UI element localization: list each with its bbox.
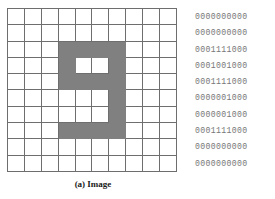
binary-code-row-4: 0001111000 bbox=[195, 74, 275, 90]
pixel-cell-r5-c5 bbox=[92, 90, 109, 106]
pixel-cell-r0-c3 bbox=[59, 9, 76, 25]
binary-code-panel: 0000000000000000000000011110000001001000… bbox=[186, 0, 275, 199]
pixel-cell-r2-c4 bbox=[76, 42, 93, 58]
pixel-cell-r1-c7 bbox=[126, 25, 143, 41]
pixel-cell-r5-c0 bbox=[8, 90, 25, 106]
image-panel: (a) Image bbox=[0, 0, 186, 199]
pixel-cell-r9-c2 bbox=[42, 156, 59, 172]
caption-image: (a) Image bbox=[0, 179, 186, 189]
pixel-cell-r0-c7 bbox=[126, 9, 143, 25]
pixel-cell-r4-c6 bbox=[109, 74, 126, 90]
pixel-cell-r4-c1 bbox=[25, 74, 42, 90]
pixel-cell-r8-c4 bbox=[76, 139, 93, 155]
pixel-cell-r8-c2 bbox=[42, 139, 59, 155]
pixel-cell-r9-c9 bbox=[160, 156, 177, 172]
pixel-cell-r8-c7 bbox=[126, 139, 143, 155]
binary-code-row-0: 0000000000 bbox=[195, 9, 275, 25]
pixel-cell-r4-c5 bbox=[92, 74, 109, 90]
pixel-cell-r4-c0 bbox=[8, 74, 25, 90]
binary-code-rows: 0000000000000000000000011110000001001000… bbox=[195, 9, 275, 172]
pixel-cell-r0-c1 bbox=[25, 9, 42, 25]
pixel-cell-r5-c8 bbox=[143, 90, 160, 106]
pixel-cell-r6-c5 bbox=[92, 107, 109, 123]
binary-code-row-1: 0000000000 bbox=[195, 25, 275, 41]
pixel-cell-r2-c5 bbox=[92, 42, 109, 58]
figure-pixel-image-and-binary-code: (a) Image 000000000000000000000001111000… bbox=[0, 0, 275, 199]
pixel-cell-r0-c9 bbox=[160, 9, 177, 25]
pixel-cell-r2-c0 bbox=[8, 42, 25, 58]
pixel-cell-r2-c6 bbox=[109, 42, 126, 58]
pixel-cell-r6-c2 bbox=[42, 107, 59, 123]
pixel-cell-r4-c9 bbox=[160, 74, 177, 90]
pixel-cell-r4-c2 bbox=[42, 74, 59, 90]
pixel-cell-r0-c2 bbox=[42, 9, 59, 25]
pixel-cell-r2-c8 bbox=[143, 42, 160, 58]
binary-code-row-6: 0000001000 bbox=[195, 107, 275, 123]
pixel-cell-r5-c6 bbox=[109, 90, 126, 106]
pixel-cell-r1-c1 bbox=[25, 25, 42, 41]
pixel-cell-r9-c4 bbox=[76, 156, 93, 172]
pixel-cell-r9-c5 bbox=[92, 156, 109, 172]
pixel-cell-r7-c3 bbox=[59, 123, 76, 139]
pixel-cell-r0-c4 bbox=[76, 9, 93, 25]
pixel-cell-r2-c3 bbox=[59, 42, 76, 58]
pixel-cell-r9-c6 bbox=[109, 156, 126, 172]
pixel-cell-r4-c3 bbox=[59, 74, 76, 90]
pixel-cell-r1-c3 bbox=[59, 25, 76, 41]
pixel-cell-r6-c9 bbox=[160, 107, 177, 123]
pixel-cell-r5-c3 bbox=[59, 90, 76, 106]
pixel-cell-r1-c8 bbox=[143, 25, 160, 41]
pixel-cell-r0-c5 bbox=[92, 9, 109, 25]
pixel-cell-r2-c1 bbox=[25, 42, 42, 58]
pixel-cell-r6-c1 bbox=[25, 107, 42, 123]
pixel-cell-r8-c8 bbox=[143, 139, 160, 155]
pixel-cell-r3-c9 bbox=[160, 58, 177, 74]
pixel-cell-r9-c3 bbox=[59, 156, 76, 172]
pixel-cell-r6-c3 bbox=[59, 107, 76, 123]
pixel-cell-r3-c6 bbox=[109, 58, 126, 74]
binary-code-row-9: 0000000000 bbox=[195, 156, 275, 172]
pixel-cell-r2-c2 bbox=[42, 42, 59, 58]
pixel-cell-r3-c0 bbox=[8, 58, 25, 74]
pixel-cell-r4-c7 bbox=[126, 74, 143, 90]
pixel-cell-r6-c6 bbox=[109, 107, 126, 123]
pixel-cell-r1-c2 bbox=[42, 25, 59, 41]
pixel-cell-r8-c0 bbox=[8, 139, 25, 155]
pixel-cell-r7-c0 bbox=[8, 123, 25, 139]
binary-code-row-8: 0000000000 bbox=[195, 139, 275, 155]
pixel-cell-r4-c8 bbox=[143, 74, 160, 90]
pixel-cell-r7-c7 bbox=[126, 123, 143, 139]
pixel-cell-r1-c6 bbox=[109, 25, 126, 41]
pixel-cell-r8-c6 bbox=[109, 139, 126, 155]
pixel-cell-r6-c8 bbox=[143, 107, 160, 123]
pixel-cell-r2-c7 bbox=[126, 42, 143, 58]
pixel-cell-r3-c2 bbox=[42, 58, 59, 74]
pixel-cell-r1-c5 bbox=[92, 25, 109, 41]
pixel-grid bbox=[7, 8, 177, 172]
pixel-cell-r3-c1 bbox=[25, 58, 42, 74]
pixel-cell-r3-c7 bbox=[126, 58, 143, 74]
pixel-cell-r5-c2 bbox=[42, 90, 59, 106]
pixel-cell-r9-c1 bbox=[25, 156, 42, 172]
pixel-cell-r1-c4 bbox=[76, 25, 93, 41]
binary-code-row-3: 0001001000 bbox=[195, 58, 275, 74]
pixel-cell-r5-c7 bbox=[126, 90, 143, 106]
pixel-cell-r5-c1 bbox=[25, 90, 42, 106]
pixel-cell-r5-c9 bbox=[160, 90, 177, 106]
pixel-cell-r9-c8 bbox=[143, 156, 160, 172]
pixel-cell-r6-c0 bbox=[8, 107, 25, 123]
pixel-cell-r7-c6 bbox=[109, 123, 126, 139]
pixel-cell-r3-c5 bbox=[92, 58, 109, 74]
pixel-cell-r3-c4 bbox=[76, 58, 93, 74]
pixel-cell-r5-c4 bbox=[76, 90, 93, 106]
pixel-cell-r0-c6 bbox=[109, 9, 126, 25]
pixel-cell-r3-c3 bbox=[59, 58, 76, 74]
binary-code-row-5: 0000001000 bbox=[195, 90, 275, 106]
pixel-cell-r1-c9 bbox=[160, 25, 177, 41]
pixel-cell-r9-c7 bbox=[126, 156, 143, 172]
pixel-cell-r7-c2 bbox=[42, 123, 59, 139]
pixel-cell-r6-c7 bbox=[126, 107, 143, 123]
pixel-cell-r9-c0 bbox=[8, 156, 25, 172]
pixel-cell-r8-c1 bbox=[25, 139, 42, 155]
pixel-cell-r2-c9 bbox=[160, 42, 177, 58]
